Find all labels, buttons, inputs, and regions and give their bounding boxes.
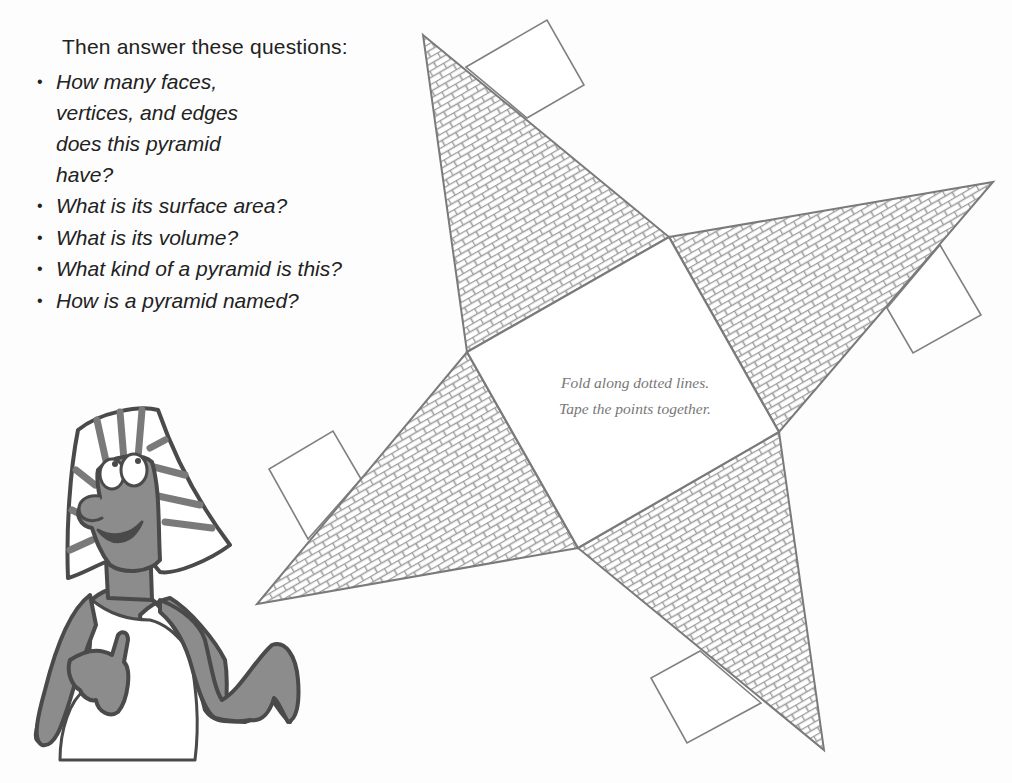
question-text: What is its surface area? (56, 190, 416, 222)
bullet-icon: • (37, 285, 43, 317)
question-text: How many faces, vertices, and edges does… (56, 66, 276, 190)
pharaoh-illustration (36, 408, 299, 760)
question-item: • What kind of a pyramid is this? (20, 253, 416, 285)
pharaoh-right-eye (121, 454, 147, 486)
fold-instruction-line-1: Fold along dotted lines. (505, 370, 765, 396)
question-item: • What is its volume? (20, 222, 416, 254)
question-text: What kind of a pyramid is this? (56, 253, 416, 285)
question-block: Then answer these questions: • How many … (20, 34, 420, 316)
pharaoh-right-pupil (135, 458, 141, 464)
question-list: • How many faces, vertices, and edges do… (20, 66, 420, 316)
worksheet-page: Then answer these questions: • How many … (0, 0, 1012, 783)
question-heading: Then answer these questions: (62, 34, 420, 60)
question-text: What is its volume? (56, 222, 416, 254)
bullet-icon: • (37, 253, 43, 285)
fold-instructions: Fold along dotted lines. Tape the points… (505, 370, 765, 422)
question-item: • How many faces, vertices, and edges do… (20, 66, 416, 190)
question-text: How is a pyramid named? (56, 285, 416, 317)
question-item: • How is a pyramid named? (20, 285, 416, 317)
pharaoh-nose (79, 496, 102, 521)
pharaoh-left-pupil (112, 461, 118, 467)
fold-instruction-line-2: Tape the points together. (505, 396, 765, 422)
question-item: • What is its surface area? (20, 190, 416, 222)
bullet-icon: • (37, 190, 43, 222)
bullet-icon: • (37, 222, 43, 254)
bullet-icon: • (37, 66, 43, 98)
